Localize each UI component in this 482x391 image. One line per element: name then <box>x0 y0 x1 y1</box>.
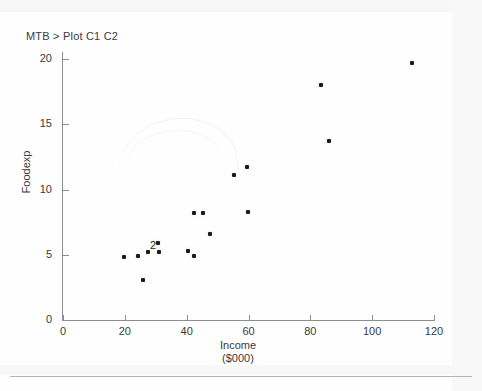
data-point <box>156 241 160 245</box>
data-point <box>192 254 196 258</box>
data-point <box>208 232 212 236</box>
x-axis-tick-label: 60 <box>234 325 264 337</box>
y-axis-tick-label: 20 <box>26 52 52 64</box>
x-axis-tick <box>434 315 435 321</box>
x-axis-tick <box>63 315 64 321</box>
data-point <box>201 211 205 215</box>
y-axis-tick <box>63 255 69 256</box>
scanned-page: MTB > Plot C1 C2 Foodexp Income ($000) 0… <box>0 0 482 391</box>
x-axis-tick-label: 120 <box>419 325 449 337</box>
overlap-count-label: 2 <box>150 239 156 251</box>
data-point <box>232 173 236 177</box>
y-axis-tick-label: 15 <box>26 117 52 129</box>
data-point <box>157 250 161 254</box>
y-axis-tick-label: 5 <box>26 248 52 260</box>
data-point <box>327 139 331 143</box>
x-axis-tick-label: 20 <box>110 325 140 337</box>
scan-artifact-arc <box>117 115 239 178</box>
x-axis-tick <box>125 315 126 321</box>
data-point <box>136 254 140 258</box>
x-axis-title-name: Income <box>183 339 293 352</box>
x-axis-tick <box>249 315 250 321</box>
x-axis-tick-label: 40 <box>172 325 202 337</box>
data-point <box>319 83 323 87</box>
x-axis-tick-label: 0 <box>48 325 78 337</box>
x-axis-tick-label: 100 <box>357 325 387 337</box>
x-axis-title-units: ($000) <box>183 352 293 365</box>
data-point <box>246 210 250 214</box>
scan-artifact-arc <box>125 128 222 172</box>
y-axis-tick <box>63 190 69 191</box>
y-axis-tick-label: 0 <box>26 313 52 325</box>
y-axis-title: Foodexp <box>20 137 32 207</box>
y-axis-tick-label: 10 <box>26 183 52 195</box>
x-axis-tick <box>187 315 188 321</box>
data-point <box>122 255 126 259</box>
x-axis-title: Income ($000) <box>183 339 293 365</box>
x-axis-tick <box>310 315 311 321</box>
scatter-plot: Foodexp Income ($000) 051015200204060801… <box>0 0 482 391</box>
y-axis-tick <box>63 59 69 60</box>
data-point <box>192 211 196 215</box>
x-axis-tick <box>372 315 373 321</box>
y-axis-line <box>62 52 63 321</box>
data-point <box>410 61 414 65</box>
y-axis-tick <box>63 124 69 125</box>
x-axis-tick-label: 80 <box>295 325 325 337</box>
data-point <box>245 165 249 169</box>
data-point <box>186 249 190 253</box>
data-point <box>141 278 145 282</box>
page-divider-rule <box>10 376 472 377</box>
